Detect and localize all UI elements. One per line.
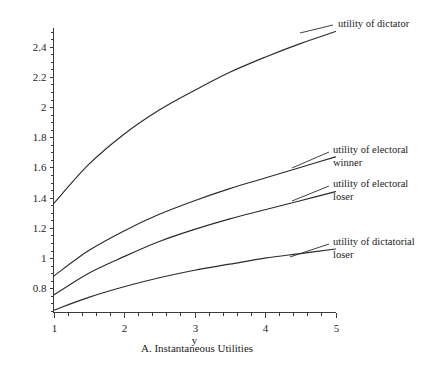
y-tick-label: 2.4	[33, 41, 47, 53]
x-tick-label: 4	[263, 322, 269, 334]
y-tick-label: 1	[41, 252, 47, 264]
figure-caption: A. Instantaneous Utilities	[141, 342, 253, 354]
y-tick-label: 2	[41, 101, 47, 113]
annotation-utility-of-dictatorial-loser: utility of dictatorialloser	[333, 236, 415, 260]
y-tick-label: 1.6	[33, 161, 47, 173]
annotation-utility-of-dictator-line-1: utility of dictator	[338, 18, 410, 29]
annotation-utility-of-electoral-loser: utility of electoralloser	[333, 178, 408, 202]
curve-utility-of-dictator	[54, 32, 336, 204]
x-tick-label: 1	[52, 322, 58, 334]
utility-curves-chart: 0.811.21.41.61.822.22.412345yutility of …	[0, 0, 434, 378]
x-tick-label: 3	[193, 322, 199, 334]
annotation-utility-of-electoral-winner: utility of electoralwinner	[333, 144, 408, 168]
x-tick-label: 5	[334, 322, 340, 334]
annotation-utility-of-electoral-loser-leader-line	[292, 186, 329, 201]
annotation-utility-of-electoral-loser-line-1: utility of electoral	[333, 178, 408, 189]
curve-utility-of-dictatorial-loser	[54, 249, 336, 310]
annotation-utility-of-dictatorial-loser-line-2: loser	[333, 249, 354, 260]
y-tick-label: 1.2	[33, 222, 47, 234]
annotation-utility-of-electoral-winner-line-1: utility of electoral	[333, 144, 408, 155]
y-tick-label: 2.2	[33, 71, 47, 83]
annotation-utility-of-electoral-winner-line-2: winner	[333, 157, 363, 168]
annotation-utility-of-dictator: utility of dictator	[338, 18, 410, 29]
y-tick-label: 0.8	[33, 282, 47, 294]
annotation-utility-of-electoral-loser-line-2: loser	[333, 191, 354, 202]
y-tick-label: 1.4	[33, 192, 47, 204]
annotation-utility-of-dictatorial-loser-line-1: utility of dictatorial	[333, 236, 415, 247]
annotation-utility-of-dictator-leader-line	[300, 25, 333, 33]
y-tick-label: 1.8	[33, 131, 47, 143]
x-tick-label: 2	[122, 322, 128, 334]
figure-instantaneous-utilities: 0.811.21.41.61.822.22.412345yutility of …	[0, 0, 434, 378]
curve-utility-of-electoral-winner	[54, 157, 336, 276]
curve-utility-of-electoral-loser	[54, 192, 336, 295]
